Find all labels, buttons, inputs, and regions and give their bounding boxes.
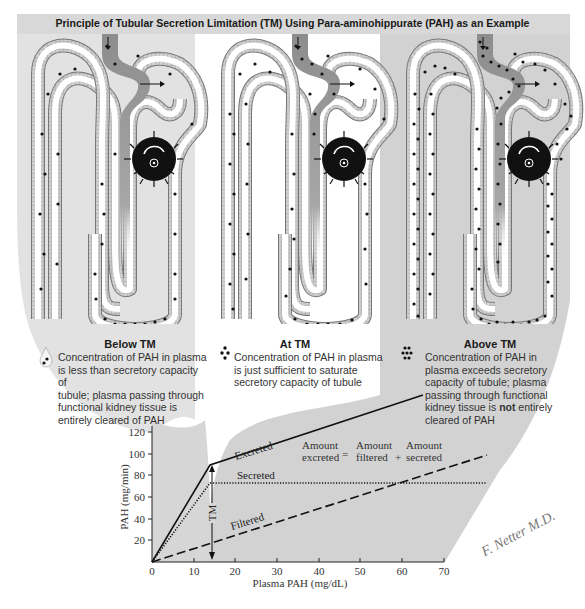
svg-text:60: 60 — [397, 565, 409, 577]
x-tick-labels: 01020 304050 6070 — [149, 565, 450, 577]
secreted-line — [152, 483, 486, 562]
svg-text:secreted: secreted — [406, 451, 443, 463]
svg-text:50: 50 — [355, 565, 367, 577]
secreted-label: Secreted — [237, 469, 275, 481]
svg-text:+: + — [395, 451, 401, 463]
svg-text:Amount: Amount — [356, 439, 392, 451]
svg-text:100: 100 — [129, 448, 146, 460]
svg-text:filtered: filtered — [356, 451, 388, 463]
filtered-line — [152, 455, 487, 562]
tm-label: TM — [206, 505, 218, 522]
svg-text:60: 60 — [134, 491, 146, 503]
y-axis-label: PAH (mg/min) — [118, 464, 131, 530]
svg-text:20: 20 — [230, 565, 242, 577]
svg-text:40: 40 — [314, 565, 326, 577]
excreted-label: Excreted — [233, 439, 274, 462]
pah-chart: 120100 8060 4020 01020 304050 6070 Plasm… — [0, 0, 585, 609]
svg-text:80: 80 — [134, 469, 146, 481]
svg-text:=: = — [342, 448, 348, 460]
y-tick-labels: 120100 8060 4020 — [129, 426, 146, 546]
svg-text:40: 40 — [134, 513, 146, 525]
svg-text:120: 120 — [129, 426, 146, 438]
svg-text:20: 20 — [134, 534, 146, 546]
svg-text:0: 0 — [149, 565, 155, 577]
svg-text:30: 30 — [272, 565, 284, 577]
svg-text:Amount: Amount — [302, 439, 338, 451]
x-axis-label: Plasma PAH (mg/dL) — [253, 577, 348, 590]
svg-text:10: 10 — [189, 565, 201, 577]
filtered-label: Filtered — [229, 510, 266, 532]
svg-text:70: 70 — [439, 565, 451, 577]
svg-text:excreted: excreted — [302, 451, 340, 463]
excreted-line — [152, 395, 423, 562]
equation: Amountexcreted = Amountfiltered + Amount… — [302, 439, 443, 463]
svg-text:Amount: Amount — [406, 439, 442, 451]
